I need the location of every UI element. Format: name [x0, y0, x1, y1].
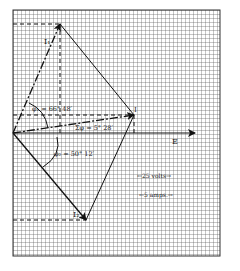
- angle-phi-label: Σφ = 5° 28′: [75, 124, 113, 132]
- label-I: I: [134, 106, 137, 114]
- scale-amps: ←5 amps.→: [139, 191, 173, 199]
- scale-volts: ←25 volts→: [137, 172, 171, 179]
- angle-phi2-label: φ₂ = 50° 12′: [54, 150, 95, 158]
- label-I2: I₂: [73, 210, 79, 219]
- phasor-diagram: I₁ I E I₂ φ₁ = 66° 48′ Σφ = 5° 28′ φ₂ = …: [0, 0, 240, 271]
- label-E: E: [172, 137, 178, 146]
- label-I1: I₁: [44, 37, 50, 46]
- angle-phi1-label: φ₁ = 66° 48′: [32, 105, 73, 113]
